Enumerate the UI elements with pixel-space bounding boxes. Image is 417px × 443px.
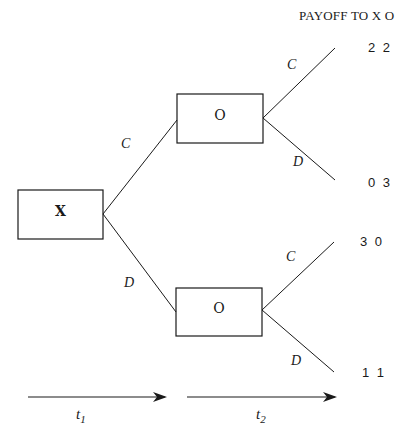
- game-tree-lines: [0, 0, 417, 443]
- time-label-t1: t1: [76, 406, 86, 425]
- payoff-dc: 3 0: [360, 234, 382, 249]
- branch-root-d: [103, 214, 176, 312]
- time-label-t2: t2: [256, 406, 266, 425]
- branch-label-root-d: D: [124, 275, 134, 291]
- branch-label-upper-d: D: [293, 154, 303, 170]
- branch-label-upper-c: C: [287, 57, 296, 73]
- branch-lower-c: [262, 242, 334, 310]
- branch-upper-c: [263, 48, 335, 118]
- upper-node-label: O: [177, 107, 263, 123]
- payoff-dd: 1 1: [362, 365, 384, 380]
- branch-label-lower-c: C: [286, 249, 295, 265]
- branch-label-lower-d: D: [291, 353, 301, 369]
- branch-root-c: [103, 120, 177, 214]
- branch-upper-d: [263, 118, 335, 180]
- payoff-header: PAYOFF TO X O: [299, 8, 394, 24]
- branch-label-root-c: C: [121, 136, 130, 152]
- lower-node-label: O: [176, 300, 262, 316]
- payoff-cc: 2 2: [368, 40, 390, 55]
- root-node-label: X: [18, 203, 103, 219]
- payoff-cd: 0 3: [368, 175, 390, 190]
